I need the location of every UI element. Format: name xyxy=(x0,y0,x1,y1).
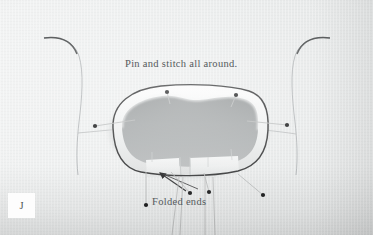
caption-pin-and-stitch: Pin and stitch all around. xyxy=(125,58,238,69)
caption-folded-ends: Folded ends xyxy=(152,196,206,207)
step-label-chip: J xyxy=(8,193,35,218)
photo-right-shading xyxy=(313,0,373,235)
figure-photograph: Pin and stitch all around. Folded ends J xyxy=(0,0,373,235)
